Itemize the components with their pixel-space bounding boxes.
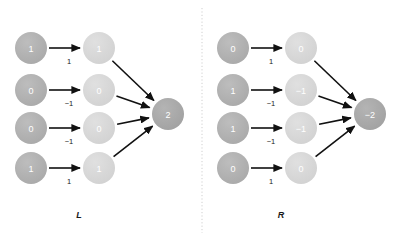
hidden-node-label-left-2: 0	[96, 124, 101, 134]
weight-label-right-0: 1	[269, 57, 273, 66]
weight-label-right-2: −1	[267, 137, 276, 146]
weight-label-left-3: 1	[67, 177, 71, 186]
input-node-label-left-2: 0	[28, 124, 33, 134]
weight-label-right-1: −1	[267, 99, 276, 108]
hidden-node-label-right-3: 0	[298, 164, 303, 174]
hidden-node-label-left-0: 1	[96, 44, 101, 54]
diagram-canvas: 110000112001−11−100−2 1−1−11L1−1−11R	[0, 0, 418, 240]
weight-label-left-1: −1	[65, 99, 74, 108]
edge-hidden-output-right-2	[319, 118, 351, 124]
hidden-node-label-right-1: −1	[296, 86, 306, 96]
input-node-label-right-2: 1	[230, 124, 235, 134]
panel-label-left: L	[76, 210, 82, 220]
weight-label-left-2: −1	[65, 137, 74, 146]
hidden-node-label-right-2: −1	[296, 124, 306, 134]
input-node-label-left-1: 0	[28, 86, 33, 96]
edge-hidden-output-right-3	[316, 126, 355, 157]
input-node-label-left-0: 1	[28, 44, 33, 54]
hidden-node-label-left-1: 0	[96, 86, 101, 96]
weight-label-left-0: 1	[67, 57, 71, 66]
network-diagram-svg: 110000112001−11−100−2 1−1−11L1−1−11R	[0, 0, 418, 240]
edge-hidden-output-right-0	[314, 61, 356, 101]
input-node-label-right-0: 0	[230, 44, 235, 54]
output-node-right-label: −2	[365, 110, 375, 120]
nodes-group: 110000112001−11−100−2	[15, 32, 386, 184]
panel-label-right: R	[278, 210, 285, 220]
edge-hidden-output-left-1	[116, 96, 149, 108]
input-node-label-left-3: 1	[28, 164, 33, 174]
edge-hidden-output-left-3	[114, 126, 153, 157]
weight-label-right-3: 1	[269, 177, 273, 186]
input-node-label-right-3: 0	[230, 164, 235, 174]
edge-hidden-output-left-0	[112, 61, 154, 101]
input-node-label-right-1: 1	[230, 86, 235, 96]
output-node-left-label: 2	[165, 110, 170, 120]
edge-hidden-output-left-2	[117, 118, 149, 124]
hidden-node-label-right-0: 0	[298, 44, 303, 54]
hidden-node-label-left-3: 1	[96, 164, 101, 174]
edge-hidden-output-right-1	[318, 96, 351, 108]
